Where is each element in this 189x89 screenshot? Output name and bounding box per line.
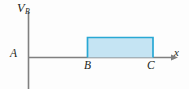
x-axis-label: x xyxy=(174,47,179,58)
y-axis-label-symbol: V xyxy=(17,1,25,15)
point-b-label: B xyxy=(84,60,91,72)
y-axis-label: VB xyxy=(17,2,29,15)
pulse-region-fill xyxy=(88,38,154,58)
y-axis-label-subscript: B xyxy=(25,7,30,16)
potential-vs-position-figure: VB A B C x xyxy=(0,0,189,89)
point-c-label: C xyxy=(147,60,155,72)
origin-point-label: A xyxy=(10,48,17,60)
